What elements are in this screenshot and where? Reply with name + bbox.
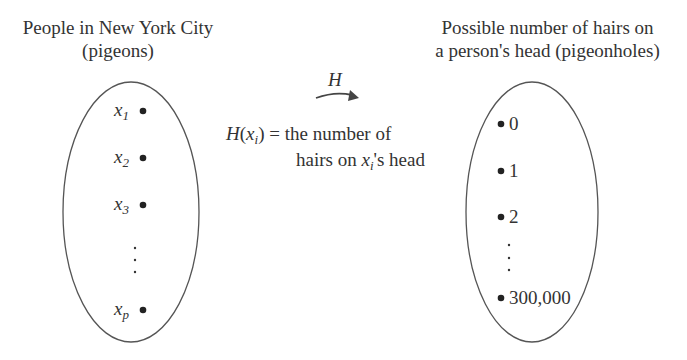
pigeonhole-dot-2	[498, 214, 505, 221]
codomain-set-title: Possible number of hairs on a person's h…	[408, 16, 687, 62]
left-vertical-ellipsis-icon	[134, 247, 136, 273]
pigeon-dot-2	[140, 155, 147, 162]
domain-title-line2: (pigeons)	[0, 39, 236, 62]
pigeon-label-x3: x3	[114, 194, 129, 214]
pigeon-dot-p	[140, 307, 147, 314]
pigeon-dot-3	[140, 202, 147, 209]
function-definition-line1: H(xi) = the number of	[226, 124, 391, 144]
domain-set-title: People in New York City (pigeons)	[0, 16, 236, 62]
pigeon-label-x2: x2	[114, 147, 129, 167]
domain-set-ellipse	[63, 82, 199, 342]
mapping-arrow-icon	[316, 90, 359, 101]
pigeonhole-dot-300000	[498, 295, 505, 302]
pigeonhole-label-0: 0	[509, 114, 519, 134]
right-vertical-ellipsis-icon	[508, 244, 510, 271]
pigeon-label-xp: xp	[114, 299, 129, 319]
pigeon-dot-1	[140, 108, 147, 115]
codomain-title-line2: a person's head (pigeonholes)	[408, 39, 687, 62]
pigeonhole-label-300000: 300,000	[509, 288, 571, 308]
pigeonhole-label-1: 1	[509, 161, 519, 181]
pigeonhole-label-2: 2	[509, 207, 519, 227]
pigeonhole-dot-0	[498, 121, 505, 128]
codomain-title-line1: Possible number of hairs on	[408, 16, 687, 39]
domain-title-line1: People in New York City	[0, 16, 236, 39]
mapping-arrow-label: H	[328, 70, 342, 90]
pigeonhole-dot-1	[498, 168, 505, 175]
function-definition-line2: hairs on xi's head	[296, 150, 425, 170]
pigeon-label-x1: x1	[114, 100, 129, 120]
